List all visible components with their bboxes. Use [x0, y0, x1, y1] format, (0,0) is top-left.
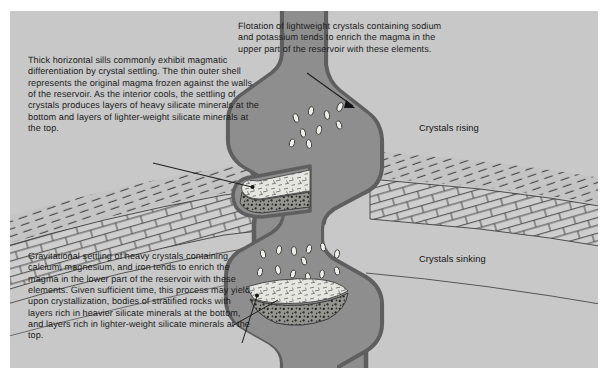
caption-sills: Thick horizontal sills commonly exhibit … — [28, 55, 260, 134]
crystal-oval — [319, 270, 325, 279]
label-crystals-sinking: Crystals sinking — [419, 254, 486, 264]
crystal-oval — [291, 246, 297, 255]
diagram-panel: Thick horizontal sills commonly exhibit … — [10, 11, 598, 368]
caption-flotation: Flotation of lightweight crystals contai… — [238, 21, 448, 55]
label-crystals-rising: Crystals rising — [419, 123, 479, 133]
leader-dot-gravitational-sill — [255, 294, 259, 298]
caption-gravitational: Gravitational settling of heavy crystals… — [28, 251, 254, 342]
leader-dot-sills — [250, 185, 254, 189]
figure-page: Thick horizontal sills commonly exhibit … — [0, 0, 608, 379]
